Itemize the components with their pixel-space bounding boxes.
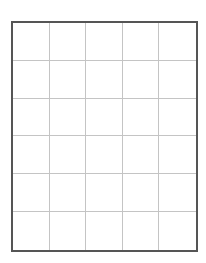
- grid-cell-r3-c2[interactable]: [50, 99, 87, 137]
- grid-cell-r4-c3[interactable]: [86, 136, 123, 174]
- grid-cell-r1-c4[interactable]: [123, 23, 160, 61]
- grid-cell-r5-c1[interactable]: [13, 174, 50, 212]
- grid-cell-r4-c5[interactable]: [159, 136, 196, 174]
- grid-cell-r1-c2[interactable]: [50, 23, 87, 61]
- grid-cell-r2-c5[interactable]: [159, 61, 196, 99]
- grid-cell-r4-c4[interactable]: [123, 136, 160, 174]
- grid-cell-r6-c1[interactable]: [13, 212, 50, 250]
- grid-cell-r3-c5[interactable]: [159, 99, 196, 137]
- grid-cell-r1-c1[interactable]: [13, 23, 50, 61]
- grid-cell-r5-c4[interactable]: [123, 174, 160, 212]
- grid-cell-r3-c4[interactable]: [123, 99, 160, 137]
- grid-cell-r6-c2[interactable]: [50, 212, 87, 250]
- grid-cell-r2-c1[interactable]: [13, 61, 50, 99]
- grid-cell-r1-c5[interactable]: [159, 23, 196, 61]
- grid-cell-r6-c5[interactable]: [159, 212, 196, 250]
- grid-cell-r6-c3[interactable]: [86, 212, 123, 250]
- grid-cell-r2-c3[interactable]: [86, 61, 123, 99]
- grid-cell-r3-c3[interactable]: [86, 99, 123, 137]
- grid-cell-r4-c1[interactable]: [13, 136, 50, 174]
- grid-cell-r2-c4[interactable]: [123, 61, 160, 99]
- grid-cell-r5-c2[interactable]: [50, 174, 87, 212]
- grid-cell-r2-c2[interactable]: [50, 61, 87, 99]
- empty-grid-board: [11, 21, 198, 252]
- grid-cell-r3-c1[interactable]: [13, 99, 50, 137]
- grid-cell-r6-c4[interactable]: [123, 212, 160, 250]
- grid-cell-r5-c3[interactable]: [86, 174, 123, 212]
- grid-cell-r4-c2[interactable]: [50, 136, 87, 174]
- grid-cell-r1-c3[interactable]: [86, 23, 123, 61]
- grid-cell-r5-c5[interactable]: [159, 174, 196, 212]
